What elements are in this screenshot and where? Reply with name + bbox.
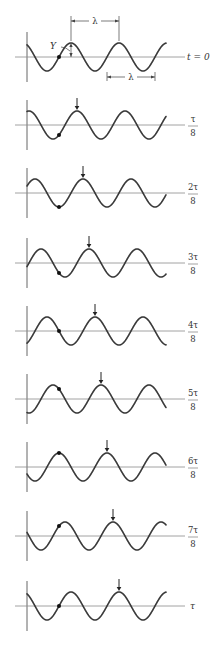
wavelength-dimension: λ (71, 16, 119, 41)
wavelength-label: λ (92, 16, 98, 26)
particle-marker (57, 387, 61, 391)
time-label-denominator: 8 (190, 196, 195, 206)
wave-snapshots-diagram: t = 0τ82τ83τ84τ85τ86τ87τ8τ λλY (0, 0, 216, 652)
down-arrow-icon (75, 106, 80, 110)
wave-panel: τ (15, 579, 196, 631)
time-label-denominator: 8 (190, 128, 195, 138)
down-arrow-icon (99, 380, 104, 384)
particle-marker (57, 55, 61, 59)
time-label-denominator: 8 (190, 402, 195, 412)
particle-marker (57, 271, 61, 275)
down-arrow-icon (81, 174, 86, 178)
left-arrow-icon (107, 75, 111, 78)
wave-panel: 3τ8 (15, 236, 198, 288)
time-label-numerator: 2τ (188, 182, 198, 192)
particle-marker (57, 133, 61, 137)
particle-marker (57, 205, 61, 209)
time-label-denominator: 8 (190, 334, 195, 344)
wave-panel: t = 0 (15, 32, 210, 82)
down-arrow-icon (69, 53, 72, 57)
right-arrow-icon (151, 75, 155, 78)
wave-panel: τ8 (15, 98, 198, 150)
time-label-numerator: 3τ (188, 252, 198, 262)
down-arrow-icon (117, 587, 122, 591)
particle-marker (57, 604, 61, 608)
particle-marker (57, 451, 61, 455)
down-arrow-icon (111, 517, 116, 521)
down-arrow-icon (87, 244, 92, 248)
time-label-numerator: 7τ (188, 525, 198, 535)
wave-panel: 2τ8 (15, 166, 198, 218)
down-arrow-icon (93, 312, 98, 316)
time-label-numerator: 6τ (188, 456, 198, 466)
wave-panel: 4τ8 (15, 304, 198, 356)
amplitude-label: Y (50, 41, 57, 51)
down-arrow-icon (105, 448, 110, 452)
time-label-numerator: 5τ (188, 388, 198, 398)
time-label-numerator: τ (191, 114, 196, 124)
right-arrow-icon (115, 19, 119, 22)
wave-panel: 5τ8 (15, 372, 198, 424)
wavelength-dimension: λ (107, 72, 155, 82)
time-label-denominator: 8 (190, 539, 195, 549)
time-label: τ (190, 601, 196, 611)
panels-group: t = 0τ82τ83τ84τ85τ86τ87τ8τ (15, 32, 210, 631)
time-label: t = 0 (187, 52, 210, 62)
wave-panel: 7τ8 (15, 509, 198, 561)
particle-marker (57, 329, 61, 333)
left-arrow-icon (71, 19, 75, 22)
particle-marker (57, 524, 61, 528)
wavelength-label: λ (128, 72, 134, 82)
time-label-denominator: 8 (190, 266, 195, 276)
time-label-denominator: 8 (190, 470, 195, 480)
first-panel-annotations: λλY (50, 16, 155, 82)
time-label-numerator: 4τ (188, 320, 198, 330)
wave-panel: 6τ8 (15, 440, 198, 492)
